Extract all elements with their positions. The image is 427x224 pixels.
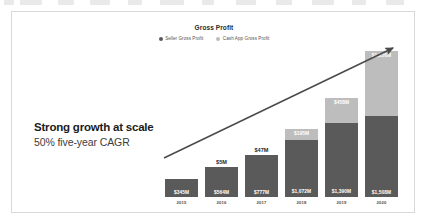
chart-plot-area: $345M2015$5M$564M2016$47M$777M2017$195M$… (12, 12, 415, 213)
bar-segment-label: $1,508M (372, 190, 391, 196)
bar-segment-seller[interactable]: $1,390M (325, 123, 358, 197)
bar-group[interactable]: $345M2015 (165, 179, 198, 197)
bar-group[interactable]: $195M$1,072M2018 (285, 129, 318, 197)
bar-year-label: 2018 (285, 200, 318, 205)
slide-card: Gross Profit Seller Gross Profit Cash Ap… (11, 11, 415, 213)
bar-segment-label: $1,390M (332, 189, 351, 195)
bar-year-label: 2020 (365, 200, 398, 205)
bar-group[interactable]: $47M$777M2017 (245, 155, 278, 197)
bar-segment-cash-app[interactable]: $1,226M (365, 51, 398, 117)
bar-segment-label: $1,072M (292, 189, 311, 195)
bar-segment-seller[interactable]: $1,072M (285, 140, 318, 197)
bar-total-label: $5M (205, 159, 238, 165)
top-content-bleed (0, 0, 427, 9)
bar-total-label: $47M (245, 147, 278, 153)
bar-year-label: 2019 (325, 200, 358, 205)
bar-year-label: 2015 (165, 200, 198, 205)
bar-group[interactable]: $5M$564M2016 (205, 167, 238, 197)
bar-segment-seller[interactable]: $777M (245, 155, 278, 197)
bar-group[interactable]: $458M$1,390M2019 (325, 98, 358, 197)
bar-segment-cash-app[interactable]: $458M (325, 98, 358, 123)
bar-year-label: 2016 (205, 200, 238, 205)
bar-segment-seller[interactable]: $1,508M (365, 116, 398, 197)
bar-segment-cash-app[interactable]: $195M (285, 129, 318, 139)
bar-group[interactable]: $1,226M$1,508M2020 (365, 51, 398, 197)
bar-year-label: 2017 (245, 200, 278, 205)
bar-segment-seller[interactable]: $345M (165, 179, 198, 197)
bar-segment-label: $1,226M (372, 53, 391, 59)
bar-segment-seller[interactable]: $564M (205, 167, 238, 197)
bar-segment-label: $564M (214, 190, 229, 196)
bar-segment-label: $195M (294, 131, 309, 137)
bar-segment-label: $345M (174, 190, 189, 196)
bar-segment-label: $777M (254, 190, 269, 196)
bar-segment-label: $458M (334, 100, 349, 106)
